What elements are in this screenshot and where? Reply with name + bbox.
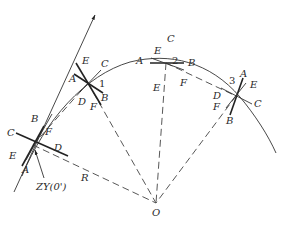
label-1-B: B	[100, 92, 108, 103]
label-1-A: A	[68, 73, 76, 84]
label-0-B: B	[30, 113, 38, 124]
center-label: O	[152, 207, 160, 218]
zy-label: ZY(0')	[35, 181, 67, 192]
chord-2-3	[166, 63, 236, 96]
label-2-A: A	[135, 55, 143, 66]
station-3-number: 3	[229, 75, 235, 86]
label-0-D: D	[53, 142, 62, 153]
radius-label: R	[80, 172, 89, 183]
chord-0-1	[33, 83, 88, 145]
circular-arc	[22, 58, 276, 176]
label-2-B: B	[187, 57, 195, 68]
station-1-number: 1	[99, 78, 105, 89]
curve-diagram: C B F D E A ZY(0') R E C A 1 B D F C E A…	[0, 0, 287, 225]
label-0-E: E	[8, 150, 17, 161]
label-3-F: F	[212, 101, 221, 112]
radius-line-3	[156, 96, 236, 203]
zy-pointer-arrow	[35, 150, 44, 178]
station-0-marker	[16, 114, 68, 166]
label-2-F: F	[179, 77, 188, 88]
label-0-F: F	[44, 126, 53, 137]
label-2-E2: E	[152, 82, 161, 93]
label-1-C: C	[101, 58, 109, 69]
label-3-D: D	[212, 90, 221, 101]
label-3-E: E	[249, 79, 258, 90]
station-2-number: 2	[172, 55, 178, 66]
radius-line-0	[33, 145, 156, 203]
label-2-C: C	[167, 33, 175, 44]
label-1-D: D	[77, 96, 86, 107]
label-3-C: C	[254, 98, 262, 109]
label-3-A: A	[239, 68, 247, 79]
label-3-B: B	[225, 115, 233, 126]
label-2-E: E	[153, 45, 162, 56]
label-1-F: F	[89, 101, 98, 112]
label-0-A: A	[21, 164, 29, 175]
label-1-E: E	[81, 55, 90, 66]
label-0-C: C	[7, 127, 15, 138]
